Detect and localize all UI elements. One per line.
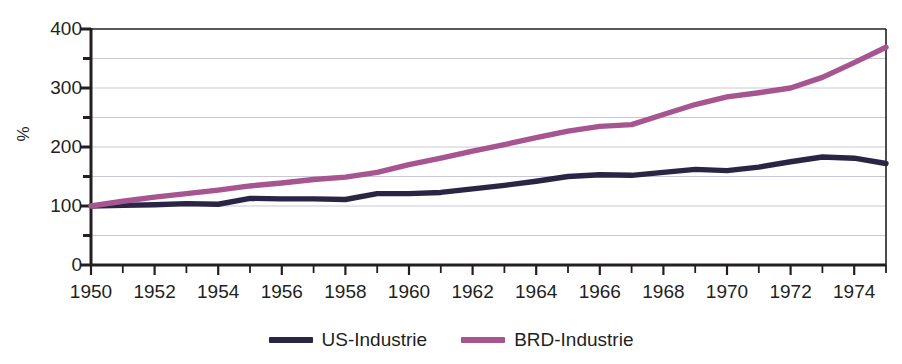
plot-area [0, 0, 902, 364]
legend-item[interactable]: US-Industrie [269, 330, 428, 349]
chart-legend: US-IndustrieBRD-Industrie [0, 330, 902, 349]
legend-color-swatch-icon [269, 337, 313, 343]
line-chart: % 4003002001000 195019521954195619581960… [0, 0, 902, 364]
legend-label: BRD-Industrie [514, 330, 633, 349]
legend-item[interactable]: BRD-Industrie [461, 330, 633, 349]
legend-color-swatch-icon [461, 337, 505, 343]
legend-label: US-Industrie [322, 330, 428, 349]
